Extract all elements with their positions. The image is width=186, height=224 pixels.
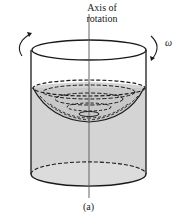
rotation-arrow-left-icon: [19, 34, 30, 56]
figure-caption: (a): [83, 201, 94, 212]
axis-label-line2: rotation: [72, 13, 132, 24]
rotating-cylinder-diagram: [0, 0, 186, 224]
rotation-arrow-right-icon: [151, 36, 157, 58]
omega-label: ω: [165, 37, 172, 48]
axis-of-rotation-label: Axis of rotation: [72, 2, 132, 24]
axis-label-line1: Axis of: [72, 2, 132, 13]
